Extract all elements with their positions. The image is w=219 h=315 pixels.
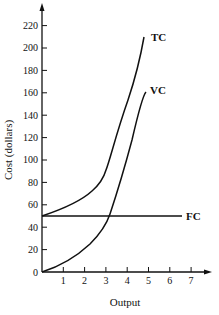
x-axis-arrow-icon bbox=[204, 270, 212, 275]
fc-label: FC bbox=[186, 210, 201, 222]
y-tick-label: 40 bbox=[28, 222, 38, 233]
y-tick-label: 80 bbox=[28, 177, 38, 188]
y-axis-title: Cost (dollars) bbox=[2, 120, 15, 181]
y-tick-label: 100 bbox=[23, 154, 38, 165]
y-tick-label: 60 bbox=[28, 199, 38, 210]
x-tick-labels: 1 2 3 4 5 6 7 bbox=[61, 275, 194, 286]
x-tick-label: 1 bbox=[61, 275, 66, 286]
vc-curve bbox=[42, 92, 146, 272]
x-tick-label: 4 bbox=[125, 275, 130, 286]
vc-label: VC bbox=[150, 84, 166, 96]
x-tick-label: 7 bbox=[189, 275, 194, 286]
tc-label: TC bbox=[151, 31, 166, 43]
origin-label: 0 bbox=[33, 267, 38, 278]
y-tick-label: 140 bbox=[23, 110, 38, 121]
x-tick-label: 5 bbox=[146, 275, 151, 286]
y-tick-label: 220 bbox=[23, 20, 38, 31]
y-tick-label: 200 bbox=[23, 42, 38, 53]
y-tick-label: 120 bbox=[23, 132, 38, 143]
y-tick-label: 180 bbox=[23, 65, 38, 76]
y-axis-arrow-icon bbox=[40, 3, 45, 11]
x-tick-label: 3 bbox=[103, 275, 108, 286]
x-ticks bbox=[63, 267, 191, 272]
tc-curve bbox=[42, 37, 144, 216]
x-tick-label: 2 bbox=[82, 275, 87, 286]
cost-curves-chart: 220 200 180 160 140 120 100 80 60 40 20 … bbox=[0, 0, 219, 315]
x-tick-label: 6 bbox=[167, 275, 172, 286]
x-axis-title: Output bbox=[110, 296, 141, 308]
y-tick-labels: 220 200 180 160 140 120 100 80 60 40 20 … bbox=[23, 20, 38, 278]
y-tick-label: 160 bbox=[23, 87, 38, 98]
y-tick-label: 20 bbox=[28, 244, 38, 255]
